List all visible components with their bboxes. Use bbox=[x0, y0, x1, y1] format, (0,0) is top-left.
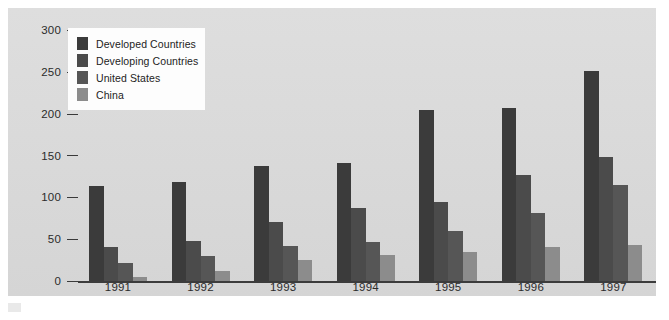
x-axis-tick-label: 1994 bbox=[337, 281, 395, 294]
bar bbox=[254, 166, 269, 281]
bar-group: 1995 bbox=[419, 21, 477, 281]
y-axis-tick-mark bbox=[67, 239, 78, 240]
bar bbox=[351, 208, 366, 282]
legend-item: United States bbox=[77, 69, 197, 86]
x-axis-tick-label: 1991 bbox=[89, 281, 147, 294]
y-axis-tick: 50 bbox=[35, 232, 78, 246]
x-axis-tick-label: 1992 bbox=[172, 281, 230, 294]
legend-color-swatch bbox=[77, 54, 88, 67]
chart-panel: 050100150200250300 199119921993199419951… bbox=[8, 8, 656, 296]
legend-label: Developed Countries bbox=[96, 38, 196, 50]
bar-group: 1993 bbox=[254, 21, 312, 281]
bar bbox=[419, 110, 434, 282]
bar bbox=[613, 185, 628, 281]
bar bbox=[118, 263, 133, 281]
y-axis-tick-label: 250 bbox=[35, 65, 61, 79]
legend-label: Developing Countries bbox=[96, 55, 198, 67]
page-artifact bbox=[8, 303, 21, 312]
bar bbox=[337, 163, 352, 282]
y-axis-tick: 0 bbox=[35, 274, 78, 288]
y-axis-tick-label: 50 bbox=[35, 232, 61, 246]
bar bbox=[215, 271, 230, 282]
bar bbox=[434, 202, 449, 281]
x-axis-tick-label: 1995 bbox=[419, 281, 477, 294]
bar bbox=[298, 260, 313, 282]
bar bbox=[545, 247, 560, 281]
bar bbox=[448, 231, 463, 281]
y-axis-tick-label: 150 bbox=[35, 149, 61, 163]
y-axis-tick-mark bbox=[67, 155, 78, 156]
bar bbox=[584, 71, 599, 281]
legend-color-swatch bbox=[77, 37, 88, 50]
bar-group: 1994 bbox=[337, 21, 395, 281]
y-axis-tick-mark bbox=[67, 197, 78, 198]
bar bbox=[89, 186, 104, 281]
legend-label: United States bbox=[96, 72, 160, 84]
y-axis-tick-label: 200 bbox=[35, 107, 61, 121]
bar bbox=[283, 246, 298, 281]
bar bbox=[502, 108, 517, 281]
bar bbox=[104, 247, 119, 281]
bar bbox=[269, 222, 284, 281]
y-axis-tick-label: 0 bbox=[35, 274, 61, 288]
y-axis-tick-mark bbox=[67, 114, 78, 115]
bar bbox=[201, 256, 216, 281]
y-axis-tick-label: 100 bbox=[35, 190, 61, 204]
legend-color-swatch bbox=[77, 71, 88, 84]
bar bbox=[599, 157, 614, 282]
y-axis-tick-label: 300 bbox=[35, 23, 61, 37]
bar bbox=[628, 245, 643, 282]
x-axis-tick-label: 1993 bbox=[254, 281, 312, 294]
bar bbox=[516, 175, 531, 281]
x-axis-tick-label: 1997 bbox=[584, 281, 642, 294]
legend-item: Developing Countries bbox=[77, 52, 197, 69]
bar bbox=[172, 182, 187, 282]
bar bbox=[463, 252, 478, 281]
bar bbox=[186, 241, 201, 281]
bar-group: 1996 bbox=[502, 21, 560, 281]
bar bbox=[531, 213, 546, 282]
legend-label: China bbox=[96, 89, 124, 101]
chart-figure: 050100150200250300 199119921993199419951… bbox=[0, 0, 669, 320]
bar-group: 1997 bbox=[584, 21, 642, 281]
chart-legend: Developed CountriesDeveloping CountriesU… bbox=[68, 28, 205, 110]
legend-item: China bbox=[77, 86, 197, 103]
x-axis-tick-label: 1996 bbox=[502, 281, 560, 294]
legend-color-swatch bbox=[77, 88, 88, 101]
bar bbox=[380, 255, 395, 281]
y-axis-tick: 100 bbox=[35, 190, 78, 204]
legend-item: Developed Countries bbox=[77, 35, 197, 52]
bar bbox=[366, 242, 381, 281]
y-axis-tick-mark bbox=[67, 281, 78, 282]
y-axis-tick: 150 bbox=[35, 149, 78, 163]
